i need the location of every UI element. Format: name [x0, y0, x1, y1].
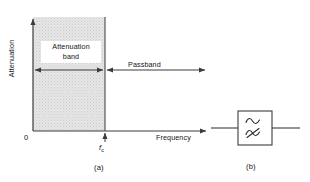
- attenuation-band-label: Attenuation band: [41, 41, 101, 63]
- filter-figure: [0, 0, 310, 182]
- panel-a-caption: (a): [94, 163, 104, 172]
- attenuation-band-label-line2: band: [63, 52, 79, 61]
- panel-b-caption: (b): [246, 162, 256, 171]
- passband-label: Passband: [128, 60, 161, 69]
- origin-label: 0: [24, 133, 28, 142]
- cutoff-frequency-subscript: c: [101, 147, 104, 153]
- attenuation-band-label-line1: Attenuation: [52, 42, 89, 51]
- filter-symbol-box: [238, 111, 272, 145]
- x-axis-label: Frequency: [156, 133, 191, 142]
- cutoff-frequency-label: fc: [99, 143, 104, 153]
- y-axis-label: Attenuation: [7, 29, 16, 89]
- attenuation-band-region: [33, 17, 105, 131]
